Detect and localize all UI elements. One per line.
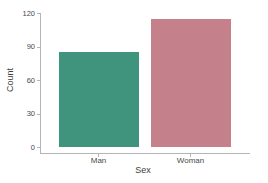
y-tick-label: 120 bbox=[13, 9, 35, 18]
x-tick-label: Man bbox=[69, 156, 129, 165]
y-tick-label: 30 bbox=[13, 109, 35, 118]
y-tick-label: 0 bbox=[13, 143, 35, 152]
y-tick-mark bbox=[37, 147, 40, 148]
bar-woman bbox=[151, 19, 231, 147]
chart-canvas: Count Sex 0306090120ManWoman bbox=[0, 0, 268, 183]
y-tick-label: 60 bbox=[13, 76, 35, 85]
x-axis-line bbox=[40, 153, 250, 154]
y-axis-line bbox=[40, 13, 41, 153]
bar-chart: Count Sex 0306090120ManWoman bbox=[0, 0, 268, 183]
y-tick-label: 90 bbox=[13, 42, 35, 51]
y-tick-mark bbox=[37, 114, 40, 115]
y-tick-mark bbox=[37, 47, 40, 48]
x-axis-title: Sex bbox=[135, 165, 151, 175]
x-tick-label: Woman bbox=[161, 156, 221, 165]
bar-man bbox=[59, 52, 139, 147]
y-tick-mark bbox=[37, 80, 40, 81]
y-tick-mark bbox=[37, 13, 40, 14]
